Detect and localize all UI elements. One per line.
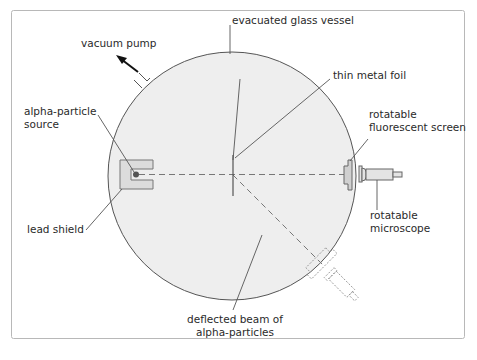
label-alpha-source: alpha-particle source (24, 105, 97, 130)
glass-vessel (108, 52, 356, 300)
alpha-source (133, 172, 139, 178)
label-glass-vessel: evacuated glass vessel (232, 14, 354, 27)
label-lead-shield: lead shield (27, 223, 84, 236)
apparatus-diagram (0, 0, 477, 360)
label-fluorescent-screen: rotatable fluorescent screen (369, 108, 466, 133)
label-metal-foil: thin metal foil (333, 69, 406, 82)
label-deflected-beam: deflected beam of alpha-particles (180, 313, 290, 338)
label-vacuum-pump: vacuum pump (81, 37, 157, 50)
label-microscope: rotatable microscope (370, 209, 430, 234)
diagram-canvas: evacuated glass vessel vacuum pump alpha… (0, 0, 477, 360)
